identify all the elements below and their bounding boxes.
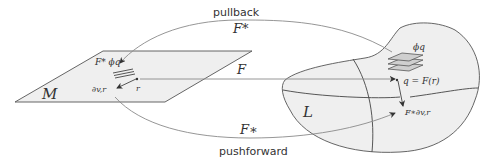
pulled-form-label: F* ϕq (94, 57, 121, 67)
tangent-vector-label: ∂v,r (92, 85, 107, 94)
manifold-l-label: L (302, 103, 313, 121)
pushed-vector-label: F∗∂v,r (404, 108, 431, 117)
pullback-symbol: F* (232, 21, 249, 36)
manifold-m-label: M (41, 85, 58, 103)
point-r (136, 78, 138, 80)
pullback-pushforward-diagram: pullback F* F F∗ pushforward M L F* ϕq r… (0, 0, 485, 163)
point-q-label: q = F(r) (403, 76, 440, 86)
pushforward-symbol: F∗ (239, 122, 258, 137)
manifold-l-surface (282, 23, 479, 152)
pushforward-caption: pushforward (219, 145, 288, 158)
form-on-l-label: ϕq (413, 42, 425, 52)
pullback-caption: pullback (213, 6, 260, 19)
map-f-symbol: F (236, 62, 247, 77)
point-q (396, 79, 398, 81)
